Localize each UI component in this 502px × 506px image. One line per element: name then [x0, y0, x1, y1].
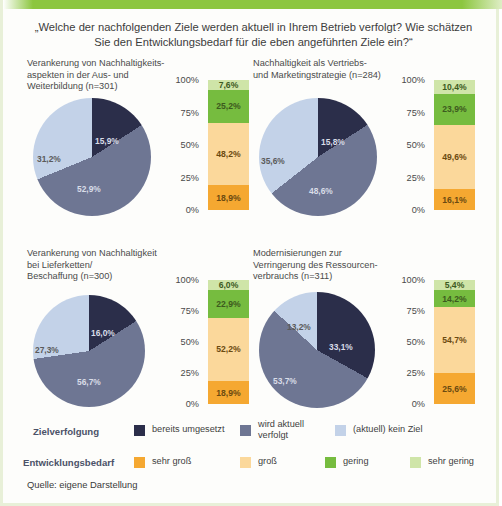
pie-label-verfolgt: 52,9%: [77, 184, 101, 194]
legend-row-entwicklungsbedarf: Entwicklungsbedarf sehr groß groß gering…: [3, 450, 502, 476]
bar-segment: 16,1%: [434, 189, 475, 210]
bar-segment: 14,2%: [434, 290, 475, 307]
bar-segment: 49,6%: [434, 125, 475, 189]
legend-label: (aktuell) kein Ziel: [353, 424, 422, 435]
bar-segment: 54,7%: [434, 307, 475, 373]
pie-label-verfolgt: 56,7%: [77, 377, 101, 387]
legend-item-bereits-umgesetzt[interactable]: bereits umgesetzt: [134, 424, 225, 436]
legend-swatch-pale-orange: [240, 457, 251, 468]
axis-tick-100: 100%: [402, 75, 426, 85]
bar-segment: 7,6%: [208, 80, 249, 90]
legend-item-gross[interactable]: groß: [240, 456, 277, 468]
axis-tick-0: 0%: [412, 205, 425, 215]
bar-segment: 5,4%: [434, 280, 475, 290]
legend-swatch-navy: [134, 425, 145, 436]
axis-tick-100: 100%: [176, 275, 200, 285]
legend-label: sehr groß: [152, 456, 191, 467]
bar-segment: 25,2%: [208, 90, 249, 123]
stacked-bar-lieferketten: 6,0%22,9%52,2%18,9%: [208, 280, 249, 404]
legend-label: groß: [258, 456, 277, 467]
top-green-band: [3, 0, 502, 9]
axis-tick-75: 75%: [181, 108, 199, 118]
bar-segment: 25,6%: [434, 373, 475, 404]
legend-caption-zielverfolgung: Zielverfolgung: [33, 426, 99, 437]
legend-label: wird aktuell verfolgt: [258, 419, 304, 440]
pie-chart-aus-weiterbildung: 15,9% 52,9% 31,2%: [33, 98, 151, 216]
axis-tick-25: 25%: [181, 368, 199, 378]
legend-swatch-lightblue: [335, 425, 346, 436]
pie-label-umgesetzt: 15,8%: [321, 137, 345, 147]
legend-item-sehr-gross[interactable]: sehr groß: [134, 456, 191, 468]
bar-segment: 22,9%: [208, 290, 249, 318]
axis-tick-0: 0%: [186, 205, 199, 215]
axis-tick-50: 50%: [181, 337, 199, 347]
legend-swatch-orange: [134, 457, 145, 468]
legend-swatch-green: [325, 457, 336, 468]
source-note: Quelle: eigene Darstellung: [27, 479, 138, 490]
pie-label-umgesetzt: 15,9%: [95, 136, 119, 146]
axis-tick-50: 50%: [407, 337, 425, 347]
bar-segment: 6,0%: [208, 280, 249, 290]
bar-segment: 23,9%: [434, 94, 475, 125]
axis-tick-100: 100%: [176, 75, 200, 85]
pie-slices: [259, 292, 375, 408]
axis-tick-25: 25%: [181, 173, 199, 183]
pie-label-kein-ziel: 35,6%: [261, 156, 285, 166]
pie-label-verfolgt: 53,7%: [273, 376, 297, 386]
axis-aus-weiterbildung: 100% 75% 50% 25% 0%: [153, 80, 199, 210]
axis-tick-0: 0%: [186, 399, 199, 409]
legend-swatch-pale-green: [410, 457, 421, 468]
axis-tick-75: 75%: [181, 306, 199, 316]
axis-tick-100: 100%: [402, 275, 426, 285]
pie-label-kein-ziel: 13,2%: [287, 322, 311, 332]
axis-ressourcen: 100% 75% 50% 25% 0%: [379, 280, 425, 404]
axis-tick-75: 75%: [407, 108, 425, 118]
pie-label-verfolgt: 48,6%: [309, 186, 333, 196]
bar-segment: 18,9%: [208, 381, 249, 404]
axis-tick-50: 50%: [181, 140, 199, 150]
legend-item-wird-aktuell-verfolgt[interactable]: wird aktuell verfolgt: [240, 419, 304, 440]
figure-question: „Welche der nachfolgenden Ziele werden a…: [31, 20, 476, 50]
stacked-bar-aus-weiterbildung: 7,6%25,2%48,2%18,9%: [208, 80, 249, 210]
pie-chart-lieferketten: 16,0% 56,7% 27,3%: [33, 295, 145, 407]
pie-label-umgesetzt: 16,0%: [91, 328, 115, 338]
legend-label: sehr gering: [428, 456, 474, 467]
axis-tick-50: 50%: [407, 140, 425, 150]
stacked-bar-vertrieb-marketing: 10,4%23,9%49,6%16,1%: [434, 80, 475, 210]
bar-segment: 18,9%: [208, 185, 249, 210]
bar-segment: 10,4%: [434, 80, 475, 94]
pie-label-kein-ziel: 27,3%: [35, 345, 59, 355]
legend: Zielverfolgung bereits umgesetzt wird ak…: [3, 418, 502, 476]
legend-label: bereits umgesetzt: [152, 424, 225, 435]
stacked-bar-ressourcen: 5,4%14,2%54,7%25,6%: [434, 280, 475, 404]
legend-swatch-slate: [240, 425, 251, 436]
legend-item-sehr-gering[interactable]: sehr gering: [410, 456, 474, 468]
pie-chart-vertrieb-marketing: 15,8% 48,6% 35,6%: [259, 98, 377, 216]
axis-vertrieb-marketing: 100% 75% 50% 25% 0%: [379, 80, 425, 210]
axis-lieferketten: 100% 75% 50% 25% 0%: [153, 280, 199, 404]
legend-label: gering: [343, 456, 369, 467]
legend-item-gering[interactable]: gering: [325, 456, 369, 468]
pie-label-umgesetzt: 33,1%: [329, 342, 353, 352]
legend-item-kein-ziel[interactable]: (aktuell) kein Ziel: [335, 424, 422, 436]
axis-tick-75: 75%: [407, 306, 425, 316]
axis-tick-25: 25%: [407, 368, 425, 378]
bar-segment: 52,2%: [208, 318, 249, 381]
pie-chart-ressourcen: 33,1% 53,7% 13,2%: [259, 292, 375, 408]
axis-tick-0: 0%: [412, 399, 425, 409]
bar-segment: 48,2%: [208, 123, 249, 186]
axis-tick-25: 25%: [407, 173, 425, 183]
pie-label-kein-ziel: 31,2%: [37, 154, 61, 164]
legend-caption-entwicklungsbedarf: Entwicklungsbedarf: [23, 457, 114, 468]
legend-row-zielverfolgung: Zielverfolgung bereits umgesetzt wird ak…: [3, 418, 502, 444]
